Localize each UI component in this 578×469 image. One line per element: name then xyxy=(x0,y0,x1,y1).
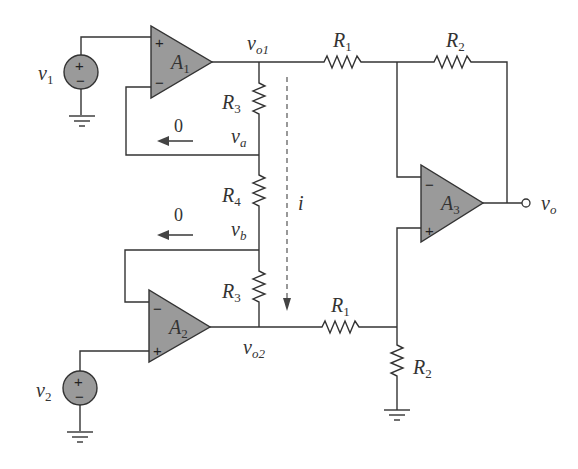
label-v1: v1 xyxy=(38,62,53,87)
opamp-a1: + − A1 xyxy=(151,26,212,98)
wire-to-a3-plus xyxy=(397,228,421,343)
arrow-left-icon xyxy=(157,136,193,146)
label-zero-current-bottom: 0 xyxy=(174,205,183,225)
label-v2: v2 xyxy=(36,379,51,404)
label-r3-top: R3 xyxy=(221,91,241,116)
ground-icon xyxy=(69,116,95,126)
label-r4: R4 xyxy=(221,184,241,209)
opamp-a2: − + A2 xyxy=(149,290,210,362)
wire-v2-to-a2-plus xyxy=(80,351,149,371)
label-r2-bottom: R2 xyxy=(412,356,432,381)
ground-icon xyxy=(384,410,410,420)
label-vo: vo xyxy=(541,192,557,217)
opamp-a3: − + A3 xyxy=(421,165,483,242)
opamp-plus-sign: + xyxy=(153,342,162,359)
label-r3-bottom: R3 xyxy=(221,280,241,305)
ground-icon xyxy=(67,432,93,442)
resistor-r2-top xyxy=(430,56,475,68)
wire-feedback-r2-to-vo xyxy=(475,62,507,203)
label-va: va xyxy=(231,125,247,150)
wire-to-a3-minus xyxy=(397,62,421,177)
source-minus-sign: − xyxy=(75,388,84,405)
label-vb: vb xyxy=(231,218,247,243)
label-r2-top: R2 xyxy=(445,29,465,54)
resistor-r3-bottom xyxy=(253,268,265,310)
opamp-plus-sign: + xyxy=(155,34,164,51)
label-vo2: vo2 xyxy=(243,336,265,361)
arrow-left-icon xyxy=(157,230,193,240)
opamp-minus-sign: − xyxy=(155,74,164,91)
label-r1-top: R1 xyxy=(332,29,352,54)
label-zero-current-top: 0 xyxy=(174,116,183,136)
voltage-source-v1: + − xyxy=(64,37,151,126)
voltage-source-v2: + − xyxy=(63,351,149,442)
output-terminal-icon xyxy=(522,199,530,207)
resistor-r3-top xyxy=(253,80,265,118)
label-vo1: vo1 xyxy=(247,32,269,57)
arrow-down-icon xyxy=(283,298,291,311)
wire-v1-to-a1-plus xyxy=(81,37,151,55)
resistor-r1-top xyxy=(320,56,365,68)
resistor-r2-bottom xyxy=(391,343,403,388)
source-minus-sign: − xyxy=(76,72,85,89)
label-r1-bottom: R1 xyxy=(330,294,350,319)
label-current-i: i xyxy=(298,192,304,214)
opamp-minus-sign: − xyxy=(425,176,434,193)
opamp-plus-sign: + xyxy=(425,222,434,239)
circuit-diagram: + − v1 + − A1 vo1 R1 R2 xyxy=(0,0,578,469)
opamp-minus-sign: − xyxy=(153,300,162,317)
resistor-r4 xyxy=(253,172,265,210)
resistor-r1-bottom xyxy=(318,321,363,333)
